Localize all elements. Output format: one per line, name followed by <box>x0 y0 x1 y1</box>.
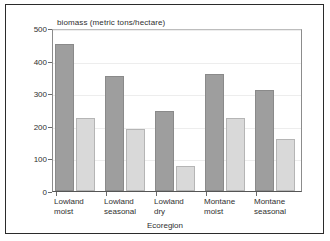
bar-actual <box>76 118 95 191</box>
chart-title: biomass (metric tons/hectare) <box>57 18 165 27</box>
x-axis-category-label: Montaneseasonal <box>254 197 286 217</box>
x-axis-category-label: Lowlanddry <box>154 197 184 217</box>
gridline <box>53 63 301 64</box>
y-axis-tick-label: 0 <box>43 188 47 197</box>
bar-actual <box>226 118 245 191</box>
x-axis-category-label: Lowlandmoist <box>54 197 84 217</box>
bar-actual <box>276 139 295 191</box>
bar-actual <box>176 166 195 191</box>
bar-actual <box>126 129 145 191</box>
plot-area <box>52 29 302 192</box>
x-axis-tick-mark <box>106 192 107 196</box>
bar-potential <box>105 76 124 191</box>
category-label-line: seasonal <box>254 207 286 217</box>
bar-potential <box>205 74 224 191</box>
y-axis-tick-label: 300 <box>34 90 47 99</box>
figure: biomass (metric tons/hectare) Potential … <box>0 0 330 241</box>
y-axis-tick-label: 400 <box>34 57 47 66</box>
category-label-line: Montane <box>204 197 235 207</box>
x-axis-category-labels: LowlandmoistLowlandseasonalLowlanddryMon… <box>52 197 302 223</box>
x-axis-tick-mark <box>56 192 57 196</box>
bar-potential <box>255 90 274 191</box>
category-label-line: Lowland <box>54 197 84 207</box>
x-axis-tick-mark <box>156 192 157 196</box>
x-axis-label: Ecoregion <box>0 221 330 230</box>
category-label-line: Montane <box>254 197 286 207</box>
y-axis-tick-label: 200 <box>34 122 47 131</box>
gridline <box>53 30 301 31</box>
x-axis-tick-marks <box>52 192 302 196</box>
category-label-line: dry <box>154 207 184 217</box>
category-label-line: moist <box>54 207 84 217</box>
category-label-line: seasonal <box>104 207 136 217</box>
y-axis-tick-label: 500 <box>34 25 47 34</box>
y-axis-tick-label: 100 <box>34 155 47 164</box>
category-label-line: Lowland <box>104 197 136 207</box>
x-axis-category-label: Lowlandseasonal <box>104 197 136 217</box>
category-label-line: moist <box>204 207 235 217</box>
y-axis-tick-labels: 0100200300400500 <box>0 29 47 192</box>
bar-potential <box>155 111 174 191</box>
bar-potential <box>55 44 74 191</box>
x-axis-category-label: Montanemoist <box>204 197 235 217</box>
category-label-line: Lowland <box>154 197 184 207</box>
plot-inner <box>53 30 301 191</box>
x-axis-tick-mark <box>256 192 257 196</box>
x-axis-tick-mark <box>206 192 207 196</box>
